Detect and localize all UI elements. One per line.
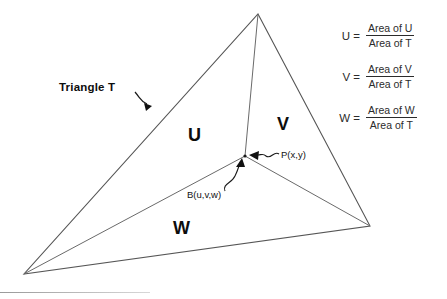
formula-row-v: V = Area of V Area of T bbox=[330, 63, 445, 90]
formula-numerator-u: Area of U bbox=[366, 22, 414, 35]
formula-fraction-v: Area of V Area of T bbox=[366, 63, 414, 90]
formula-lhs-u: U = bbox=[330, 30, 366, 42]
formula-denominator-u: Area of T bbox=[367, 36, 414, 49]
formula-block: U = Area of U Area of T V = Area of V Ar… bbox=[330, 22, 445, 145]
triangle-t-label: Triangle T bbox=[59, 82, 115, 94]
formula-denominator-v: Area of T bbox=[366, 77, 413, 90]
triangle-t-leader-line bbox=[135, 92, 147, 104]
triangle-t-leader-arrowhead bbox=[144, 103, 152, 111]
formula-row-u: U = Area of U Area of T bbox=[330, 22, 445, 49]
formula-lhs-w: W = bbox=[330, 112, 366, 124]
interior-point-marker bbox=[243, 154, 246, 157]
point-label-p: P(x,y) bbox=[281, 150, 306, 160]
formula-numerator-w: Area of W bbox=[366, 104, 417, 117]
page-bottom-rule bbox=[0, 292, 150, 293]
formula-row-w: W = Area of W Area of T bbox=[330, 104, 445, 131]
point-label-b: B(u,v,w) bbox=[187, 190, 221, 200]
barycentric-coordinates-diagram: U V W Triangle T P(x,y) B(u,v,w) U = Are… bbox=[0, 0, 447, 299]
formula-numerator-v: Area of V bbox=[366, 63, 414, 76]
formula-lhs-v: V = bbox=[330, 71, 366, 83]
cevian-p-to-bottom-left-vertex bbox=[24, 156, 245, 274]
formula-fraction-w: Area of W Area of T bbox=[366, 104, 417, 131]
b-label-leader-arrowhead bbox=[236, 158, 245, 167]
b-label-leader-line bbox=[224, 166, 239, 191]
region-label-v: V bbox=[277, 115, 289, 133]
region-label-u: U bbox=[188, 126, 201, 144]
cevian-p-to-apex bbox=[245, 14, 258, 156]
p-label-leader-line bbox=[258, 153, 279, 157]
formula-fraction-u: Area of U Area of T bbox=[366, 22, 414, 49]
formula-denominator-w: Area of T bbox=[368, 118, 415, 131]
region-label-w: W bbox=[173, 219, 190, 237]
